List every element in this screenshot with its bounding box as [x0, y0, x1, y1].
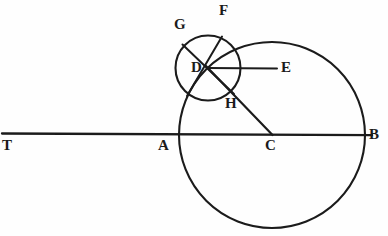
segment-DE — [208, 68, 277, 69]
diagram-canvas — [0, 0, 388, 236]
point-label-D: D — [191, 60, 202, 75]
point-label-F: F — [219, 3, 228, 18]
point-label-B: B — [369, 127, 379, 142]
point-label-E: E — [281, 60, 291, 75]
point-label-G: G — [174, 17, 186, 32]
geometry-diagram: T A C B D E F G H — [0, 0, 388, 236]
point-label-C: C — [265, 138, 276, 153]
point-label-H: H — [225, 96, 237, 111]
point-label-T: T — [2, 138, 12, 153]
baseline-TB — [2, 134, 372, 136]
point-label-A: A — [158, 138, 169, 153]
